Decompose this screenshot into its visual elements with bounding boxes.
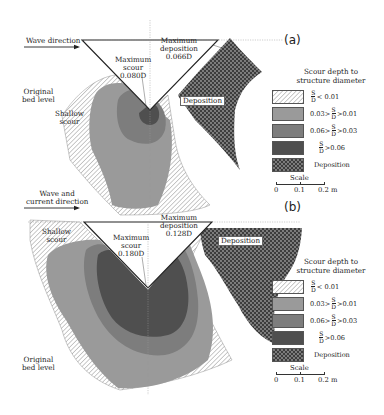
level2-swatch-icon bbox=[272, 124, 304, 138]
legend-panel-b: Scour depth to structure diameter SD< 0.… bbox=[272, 258, 384, 386]
panel-a-original-bed-label: Original bed level bbox=[22, 88, 55, 104]
hatch-swatch-icon bbox=[272, 280, 304, 294]
panel-a-max-deposition-label: Maximum deposition 0.066D bbox=[160, 37, 198, 61]
legend-item-level1: 0.03>SD>0.01 bbox=[272, 295, 384, 312]
panel-a-shallow-scour-label: Shallow scour bbox=[55, 110, 84, 126]
scale-bar: Scale 0 0.1 0.2 m bbox=[272, 364, 384, 386]
legend-item-level3: SD>0.06 bbox=[272, 329, 384, 346]
panel-a-tag: (a) bbox=[284, 33, 301, 47]
level1-swatch-icon bbox=[272, 107, 304, 121]
legend-panel-a: Scour depth to structure diameter SD< 0.… bbox=[272, 68, 384, 196]
legend-item-shallow: SD< 0.01 bbox=[272, 88, 384, 105]
legend-item-deposition: Deposition bbox=[272, 346, 384, 363]
panel-b-shallow-scour-label: Shallow scour bbox=[42, 228, 71, 244]
panel-b-original-bed-label: Original bed level bbox=[22, 356, 55, 372]
panel-b-flow-label: Wave and current direction bbox=[26, 190, 88, 206]
level1-swatch-icon bbox=[272, 297, 304, 311]
legend-item-shallow: SD< 0.01 bbox=[272, 278, 384, 295]
legend-item-level2: 0.06>SD>0.03 bbox=[272, 122, 384, 139]
legend-item-level1: 0.03>SD>0.01 bbox=[272, 105, 384, 122]
legend-title: Scour depth to structure diameter bbox=[278, 68, 384, 85]
panel-b-tag: (b) bbox=[284, 200, 301, 214]
legend-item-deposition: Deposition bbox=[272, 156, 384, 173]
legend-item-level2: 0.06>SD>0.03 bbox=[272, 312, 384, 329]
panel-a-max-scour-label: Maximum scour 0.080D bbox=[115, 56, 151, 80]
level3-swatch-icon bbox=[272, 331, 304, 345]
scale-bar: Scale 0 0.1 0.2 m bbox=[272, 174, 384, 196]
panel-a-deposition-label: Deposition bbox=[180, 96, 225, 106]
legend-item-level3: SD>0.06 bbox=[272, 139, 384, 156]
panel-b-max-scour-label: Maximum scour 0.180D bbox=[113, 234, 149, 258]
level2-swatch-icon bbox=[272, 314, 304, 328]
deposition-swatch-icon bbox=[272, 348, 304, 362]
level3-swatch-icon bbox=[272, 141, 304, 155]
panel-b-deposition-label: Deposition bbox=[218, 236, 263, 246]
panel-a-flow-label: Wave direction bbox=[26, 37, 80, 45]
hatch-swatch-icon bbox=[272, 90, 304, 104]
panel-b-max-deposition-label: Maximum deposition 0.128D bbox=[160, 214, 198, 238]
deposition-swatch-icon bbox=[272, 158, 304, 172]
